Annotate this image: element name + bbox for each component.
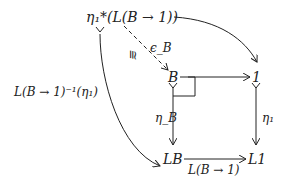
label-left-curve: L(B → 1)⁻¹(η₁) [14,86,98,98]
arrow-top-to-one [174,17,257,62]
mono-tail-top [96,27,104,32]
label-bottom: L(B → 1) [188,164,239,176]
label-eta-1: η₁ [262,112,274,124]
node-top: η₁*(L(B → 1)) [86,10,178,24]
label-iso: ≅ [127,49,139,59]
node-LB: LB [163,152,183,166]
label-eta-B: η_B [155,112,177,124]
label-epsilon-B: ϵ_B [150,42,172,54]
node-L1: L1 [248,152,266,166]
node-B: B [168,70,178,84]
node-one: 1 [252,70,261,84]
